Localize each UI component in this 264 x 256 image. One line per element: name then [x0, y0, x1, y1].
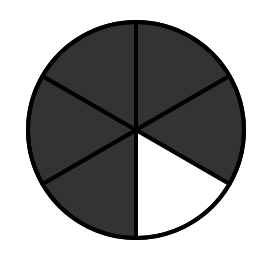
fraction-circle-diagram: [0, 0, 264, 256]
